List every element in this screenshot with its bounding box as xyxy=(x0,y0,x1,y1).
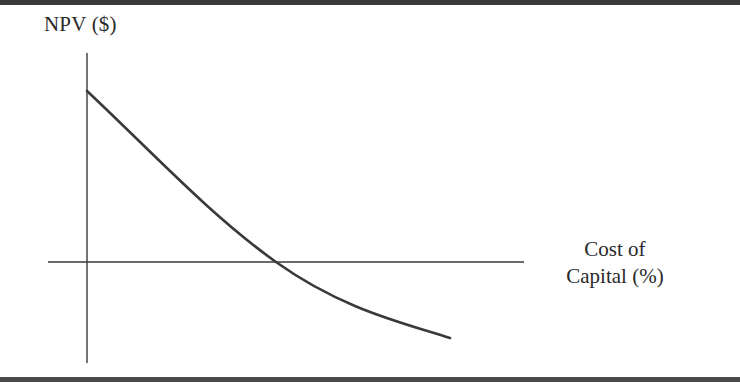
x-axis-label: Cost of Capital (%) xyxy=(540,236,690,290)
x-axis-label-line-1: Cost of xyxy=(540,236,690,263)
bottom-border xyxy=(0,377,740,382)
x-axis-label-line-2: Capital (%) xyxy=(540,263,690,290)
npv-profile-chart xyxy=(0,0,740,382)
y-axis-label: NPV ($) xyxy=(44,12,117,37)
npv-curve xyxy=(87,91,450,338)
